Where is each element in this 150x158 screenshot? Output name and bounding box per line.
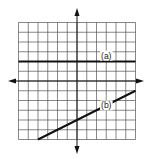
coordinate-graph: (a) (b): [0, 0, 150, 158]
x-axis-left-arrow-icon: [8, 79, 16, 84]
y-axis-up-arrow-icon: [75, 8, 80, 16]
line-b-label: (b): [101, 100, 112, 110]
y-axis-down-arrow-icon: [75, 146, 80, 154]
x-axis-right-arrow-icon: [136, 79, 144, 84]
line-a-label: (a): [101, 51, 112, 61]
